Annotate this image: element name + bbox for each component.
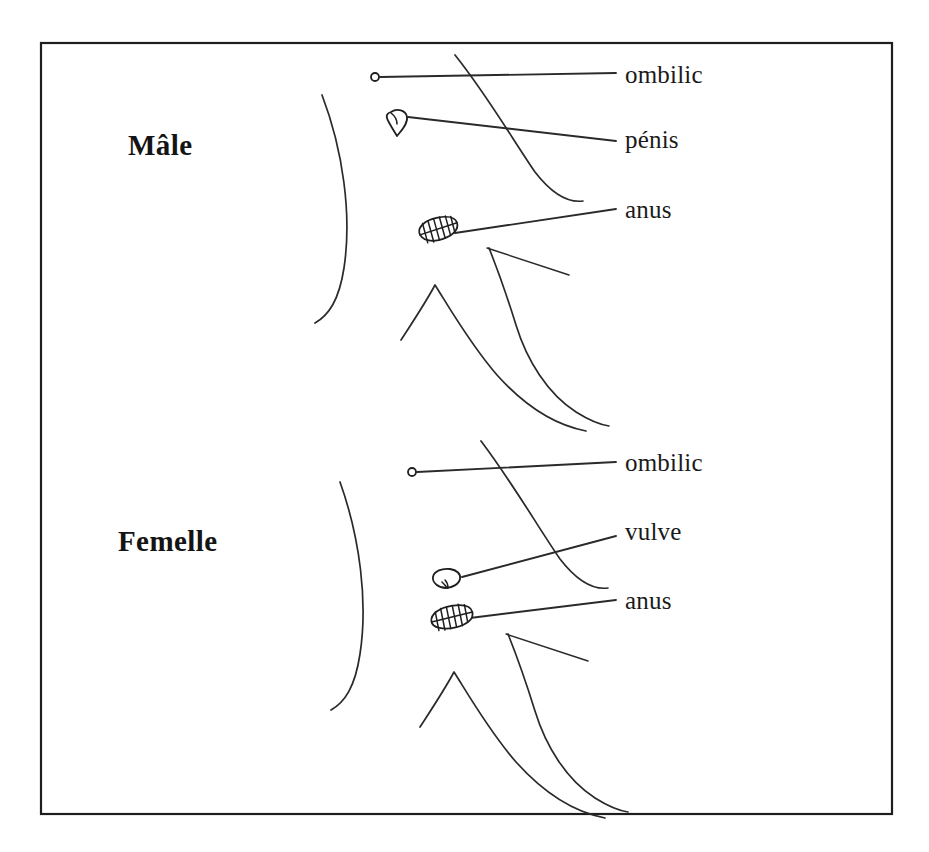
leader-line-female-vulve <box>462 536 616 577</box>
figure-page: Mâle Femelle ombilic pénis anus ombilic … <box>0 0 929 852</box>
leader-line-female-ombilic <box>417 462 616 472</box>
female-anus-organ <box>429 601 475 633</box>
male-flank-left-outline <box>315 95 347 323</box>
label-male-ombilic: ombilic <box>625 62 703 87</box>
leader-line-female-anus <box>470 600 616 618</box>
male-flank-right-outline <box>455 55 583 201</box>
male-penis-organ <box>387 110 407 136</box>
leader-line-male-anus <box>455 209 616 233</box>
panel-female <box>331 441 628 818</box>
label-male-anus: anus <box>625 197 672 222</box>
male-left-leg-outline <box>401 285 586 431</box>
label-female-vulve: vulve <box>625 519 682 544</box>
label-female-ombilic: ombilic <box>625 450 703 475</box>
female-tail-tick-outline <box>506 634 588 661</box>
male-anus-organ <box>416 212 460 245</box>
female-left-leg-outline <box>420 672 605 818</box>
male-tail-tick-outline <box>487 248 569 275</box>
label-male-penis: pénis <box>625 127 679 152</box>
label-female-anus: anus <box>625 588 672 613</box>
panel-title-male: Mâle <box>128 131 192 160</box>
leader-line-male-ombilic <box>380 73 616 77</box>
panel-male <box>315 55 616 431</box>
male-umbilicus-marker <box>371 73 379 81</box>
female-umbilicus-marker <box>408 468 416 476</box>
female-flank-left-outline <box>331 482 363 710</box>
female-right-leg-outline <box>508 634 628 812</box>
female-vulva-organ <box>433 569 460 588</box>
panel-title-female: Femelle <box>118 527 217 556</box>
male-right-leg-outline <box>489 248 609 426</box>
anatomical-figure-canvas <box>0 0 929 852</box>
